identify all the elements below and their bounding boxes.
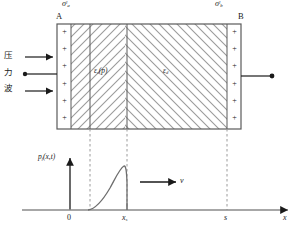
epsilon-arg: (p) (99, 66, 108, 75)
node-label-a: A (56, 12, 62, 21)
stress-label-right: σlb (215, 0, 223, 9)
projection-lines (90, 129, 227, 210)
plus-column-right: + + + + + + (229, 28, 240, 122)
plot-ylabel: pf(x,t) (38, 153, 55, 162)
plus-mark: + (62, 62, 67, 70)
plus-mark: + (232, 80, 237, 88)
pressure-wave-char: 压 (4, 51, 13, 60)
pressure-wave-char: 波 (4, 84, 13, 93)
p-arg: (x,t) (43, 152, 55, 161)
sigma-sub: b (220, 3, 222, 8)
zone-s-region (71, 24, 127, 129)
plus-mark: + (62, 114, 67, 122)
plus-mark: + (232, 114, 237, 122)
plus-column-left: + + + + + + (59, 28, 70, 122)
right-terminal-lead (241, 74, 274, 79)
plus-mark: + (232, 28, 237, 36)
zone-s-label: εs(p) (94, 67, 108, 76)
plus-mark: + (62, 80, 67, 88)
xtick-xs: xs (122, 214, 128, 223)
plus-mark: + (232, 62, 237, 70)
pressure-wave-label: 压 力 波 (4, 51, 13, 93)
pressure-pulse-curve (88, 166, 127, 210)
pressure-wave-char: 力 (4, 68, 13, 77)
xtick-0: 0 (67, 214, 71, 222)
stress-label-left: σla (62, 0, 70, 9)
plot-xlabel: x (283, 214, 287, 222)
figure-canvas: + + + + + + + + + + + + A B σla σlb 压 力 … (0, 0, 300, 235)
zone-d-region (127, 24, 227, 129)
node-label-b: B (238, 12, 244, 21)
velocity-label: v (180, 177, 184, 185)
xtick-s: s (224, 214, 227, 222)
plus-mark: + (232, 97, 237, 105)
x-sub: s (126, 217, 128, 222)
plot-axes (22, 158, 288, 210)
plus-mark: + (62, 45, 67, 53)
diagram-svg (0, 0, 300, 235)
plus-mark: + (62, 28, 67, 36)
zone-d-label: εd (163, 67, 168, 76)
epsilon-sub: d (166, 70, 168, 75)
plus-mark: + (62, 97, 67, 105)
plus-mark: + (232, 45, 237, 53)
pressure-wave-arrows (23, 57, 57, 91)
sigma-sub: a (67, 3, 69, 8)
